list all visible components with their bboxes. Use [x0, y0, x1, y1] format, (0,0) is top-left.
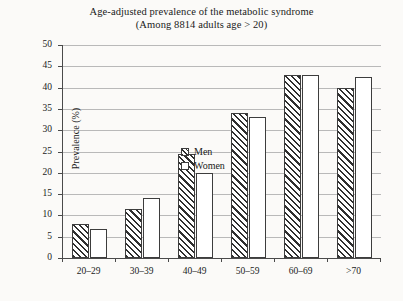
gridline [63, 45, 381, 46]
x-tick-label: 20–29 [59, 266, 119, 276]
chart-subtitle: (Among 8814 adults age > 20) [0, 18, 403, 31]
page-title: Age-adjusted prevalence of the metabolic… [0, 5, 403, 18]
y-tick-label: 35 [26, 104, 52, 114]
x-tick-mark [115, 258, 116, 262]
x-tick-label: 50–59 [218, 266, 278, 276]
y-tick-mark [58, 237, 62, 238]
legend-label-women: Women [194, 159, 225, 173]
gridline [63, 215, 381, 216]
y-tick-mark [58, 45, 62, 46]
gridline [63, 66, 381, 67]
bar-men-3 [231, 113, 248, 258]
legend-swatch-women-icon [181, 162, 189, 170]
y-tick-mark [58, 66, 62, 67]
y-tick-mark [58, 194, 62, 195]
bar-men-0 [72, 224, 89, 258]
legend-label-men: Men [194, 145, 212, 159]
x-tick-label: 60–69 [271, 266, 331, 276]
bar-women-3 [249, 117, 266, 258]
y-axis-label: Prevalence (%) [70, 74, 81, 204]
gridline [63, 194, 381, 195]
gridline [63, 130, 381, 131]
bar-women-4 [302, 75, 319, 258]
x-tick-mark [274, 258, 275, 262]
y-tick-mark [58, 173, 62, 174]
x-tick-label: 40–49 [165, 266, 225, 276]
bar-women-2 [196, 173, 213, 258]
chart-legend: Men Women [181, 145, 225, 173]
y-tick-label: 45 [26, 61, 52, 71]
bar-women-1 [143, 198, 160, 258]
x-tick-mark [221, 258, 222, 262]
legend-item-women: Women [181, 159, 225, 173]
bar-men-5 [337, 88, 354, 258]
y-tick-mark [58, 215, 62, 216]
x-tick-mark [327, 258, 328, 262]
y-tick-label: 25 [26, 147, 52, 157]
bar-men-4 [284, 75, 301, 258]
bar-men-1 [125, 209, 142, 258]
x-tick-mark [168, 258, 169, 262]
y-tick-label: 20 [26, 168, 52, 178]
legend-swatch-men-icon [181, 148, 189, 156]
y-tick-label: 10 [26, 210, 52, 220]
chart-title-block: Age-adjusted prevalence of the metabolic… [0, 5, 403, 31]
y-tick-mark [58, 130, 62, 131]
y-tick-label: 5 [26, 232, 52, 242]
bar-women-0 [90, 229, 107, 258]
y-tick-mark [58, 88, 62, 89]
y-tick-mark [58, 109, 62, 110]
y-tick-label: 15 [26, 189, 52, 199]
x-tick-mark [62, 258, 63, 262]
bar-women-5 [355, 77, 372, 258]
gridline [63, 88, 381, 89]
plot-area: Men Women Prevalence (%) [62, 45, 380, 258]
y-tick-label: 40 [26, 83, 52, 93]
y-tick-label: 0 [26, 253, 52, 263]
y-tick-label: 50 [26, 40, 52, 50]
x-tick-label: >70 [324, 266, 384, 276]
legend-item-men: Men [181, 145, 225, 159]
gridline [63, 109, 381, 110]
y-tick-mark [58, 152, 62, 153]
x-tick-mark [380, 258, 381, 262]
x-tick-label: 30–39 [112, 266, 172, 276]
y-tick-label: 30 [26, 125, 52, 135]
gridline [63, 237, 381, 238]
